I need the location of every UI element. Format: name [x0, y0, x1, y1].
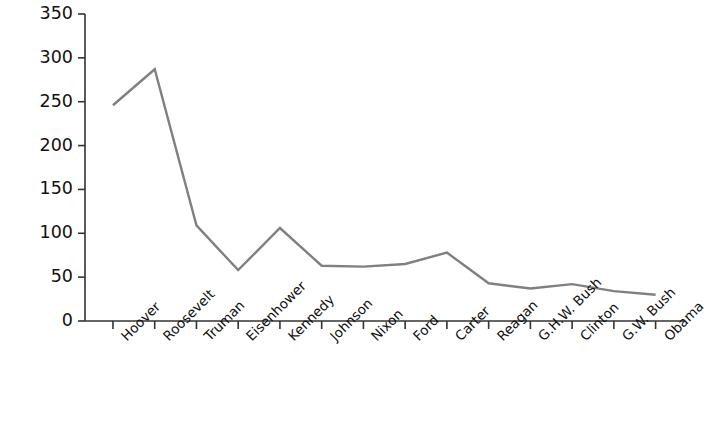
y-axis-tick-label: 100	[40, 224, 73, 242]
y-axis-tick-label: 150	[40, 180, 73, 198]
y-axis-tick-label: 350	[40, 5, 73, 23]
y-axis-tick-label: 200	[40, 137, 73, 155]
y-axis-tick-label: 50	[51, 268, 73, 286]
y-axis-tick-label: 250	[40, 93, 73, 111]
y-axis-ticks	[78, 14, 85, 321]
y-axis-tick-label: 300	[40, 49, 73, 67]
y-axis-tick-label: 0	[62, 312, 73, 330]
data-series-line	[113, 69, 656, 294]
